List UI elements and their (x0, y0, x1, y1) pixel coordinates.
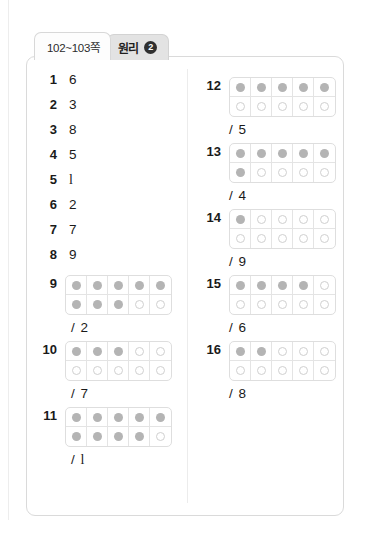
ten-frame-cell (251, 361, 272, 380)
empty-dot-icon (299, 168, 308, 177)
ten-frame-line (230, 144, 335, 163)
ten-frame-cell (87, 342, 108, 361)
filled-dot-icon (93, 281, 102, 290)
ten-frame-cell (272, 229, 293, 248)
answer-value: 2 (57, 196, 77, 212)
ten-frame-cell (108, 295, 129, 314)
empty-dot-icon (257, 234, 266, 243)
ten-frame-line (66, 408, 171, 427)
ten-frame-cell (129, 408, 150, 427)
ten-frame-cell (272, 163, 293, 182)
ten-frame-cell (293, 210, 314, 229)
ten-frame-cell (230, 78, 251, 97)
ten-frame-line (230, 361, 335, 380)
ten-frame (229, 341, 336, 381)
empty-dot-icon (156, 300, 165, 309)
ten-frame-cell (150, 427, 171, 446)
ten-frame-cell (129, 361, 150, 380)
ten-frame-cell (230, 295, 251, 314)
empty-dot-icon (135, 347, 144, 356)
empty-dot-icon (156, 366, 165, 375)
filled-dot-icon (236, 281, 245, 290)
tab-strip: 102~103쪽 원리 2 (34, 30, 169, 60)
frame-row: 14 (187, 209, 344, 249)
ten-frame-cell (293, 144, 314, 163)
ten-frame-cell (129, 427, 150, 446)
empty-dot-icon (320, 102, 329, 111)
filled-dot-icon (93, 432, 102, 441)
tab-page-range-label: 102~103쪽 (47, 39, 101, 55)
tab-principle[interactable]: 원리 2 (107, 34, 169, 60)
empty-dot-icon (320, 215, 329, 224)
fraction-answer: / l (71, 452, 187, 468)
filled-dot-icon (278, 281, 287, 290)
empty-dot-icon (236, 300, 245, 309)
empty-dot-icon (257, 215, 266, 224)
empty-dot-icon (72, 366, 81, 375)
left-simple-answer-list: 162338455l627789 (27, 71, 187, 269)
page-left-edge (8, 0, 9, 520)
question-number: 3 (27, 121, 57, 137)
filled-dot-icon (93, 413, 102, 422)
filled-dot-icon (299, 83, 308, 92)
ten-frame-line (230, 276, 335, 295)
ten-frame (229, 77, 336, 117)
frame-answer-item: 9/ 2 (27, 275, 187, 335)
left-frame-answer-list: 9/ 210/ 711/ l (27, 275, 187, 468)
ten-frame-cell (251, 163, 272, 182)
ten-frame-cell (251, 78, 272, 97)
question-number: 8 (27, 246, 57, 262)
ten-frame-cell (251, 210, 272, 229)
empty-dot-icon (156, 432, 165, 441)
ten-frame-cell (87, 408, 108, 427)
filled-dot-icon (156, 413, 165, 422)
ten-frame-line (66, 361, 171, 380)
ten-frame-cell (129, 276, 150, 295)
empty-dot-icon (299, 366, 308, 375)
ten-frame-cell (129, 295, 150, 314)
ten-frame-cell (230, 342, 251, 361)
ten-frame-cell (293, 229, 314, 248)
frame-row: 15 (187, 275, 344, 315)
ten-frame-cell (251, 276, 272, 295)
ten-frame-cell (272, 361, 293, 380)
ten-frame-cell (314, 78, 335, 97)
fraction-answer: / 8 (229, 386, 344, 401)
simple-answer-item: 23 (27, 96, 187, 119)
filled-dot-icon (156, 281, 165, 290)
frame-answer-item: 10/ 7 (27, 341, 187, 401)
ten-frame-cell (108, 408, 129, 427)
empty-dot-icon (278, 168, 287, 177)
question-number: 7 (27, 221, 57, 237)
ten-frame-cell (230, 229, 251, 248)
question-number: 2 (27, 96, 57, 112)
ten-frame (229, 275, 336, 315)
empty-dot-icon (236, 366, 245, 375)
filled-dot-icon (236, 83, 245, 92)
answer-value: 6 (57, 71, 77, 87)
empty-dot-icon (320, 281, 329, 290)
ten-frame-cell (293, 295, 314, 314)
empty-dot-icon (135, 300, 144, 309)
empty-dot-icon (299, 102, 308, 111)
filled-dot-icon (257, 281, 266, 290)
filled-dot-icon (93, 300, 102, 309)
right-frame-answer-list: 12/ 513/ 414/ 915/ 616/ 8 (187, 77, 344, 401)
ten-frame-cell (314, 361, 335, 380)
filled-dot-icon (114, 413, 123, 422)
simple-answer-item: 16 (27, 71, 187, 94)
ten-frame-cell (66, 427, 87, 446)
simple-answer-item: 62 (27, 196, 187, 219)
ten-frame-cell (150, 276, 171, 295)
tab-page-range[interactable]: 102~103쪽 (34, 32, 111, 60)
ten-frame (229, 209, 336, 249)
ten-frame (65, 407, 172, 447)
filled-dot-icon (320, 149, 329, 158)
simple-answer-item: 38 (27, 121, 187, 144)
ten-frame-cell (314, 229, 335, 248)
left-answer-column: 162338455l627789 9/ 210/ 711/ l (27, 71, 187, 472)
simple-answer-item: 5l (27, 171, 187, 194)
ten-frame-cell (251, 97, 272, 116)
fraction-answer: / 4 (229, 188, 344, 203)
filled-dot-icon (72, 432, 81, 441)
